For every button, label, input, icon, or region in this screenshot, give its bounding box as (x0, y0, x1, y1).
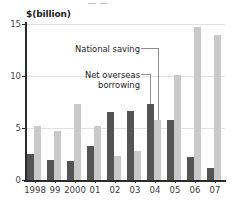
bar-national-saving-06 (194, 27, 201, 180)
bar-net-overseas-borrowing-06 (187, 157, 194, 180)
y-tick-label: 10 (1, 71, 21, 81)
bar-net-overseas-borrowing-1998 (27, 154, 34, 180)
cropped-title-sliver: — — (88, 0, 144, 4)
y-tick-label: 5 (1, 123, 21, 133)
bar-national-saving-03 (134, 151, 141, 180)
annotation-net-overseas-borrowing: Net overseas borrowing (46, 70, 140, 90)
annotation-leader-vertical (150, 74, 151, 104)
x-tick-mark (195, 180, 196, 183)
x-tick-mark (215, 180, 216, 183)
annotation-national-saving: National saving (56, 44, 140, 54)
bar-net-overseas-borrowing-03 (127, 111, 134, 180)
x-tick-mark (115, 180, 116, 183)
annotation-leader-horizontal (141, 74, 150, 75)
bar-net-overseas-borrowing-05 (167, 120, 174, 180)
bar-net-overseas-borrowing-2000 (67, 161, 74, 180)
chart-figure: — — $(billion) National saving Net overs… (0, 0, 232, 204)
bar-net-overseas-borrowing-02 (107, 112, 114, 180)
bar-national-saving-02 (114, 156, 121, 180)
bar-net-overseas-borrowing-07 (207, 168, 214, 180)
bar-net-overseas-borrowing-01 (87, 146, 94, 180)
bar-net-overseas-borrowing-04 (147, 104, 154, 180)
y-tick-mark (22, 76, 25, 77)
y-tick-mark (22, 24, 25, 25)
y-axis-label: $(billion) (26, 9, 71, 19)
y-tick-label: 15 (1, 19, 21, 29)
x-tick-mark (95, 180, 96, 183)
y-tick-mark (22, 128, 25, 129)
x-tick-mark (155, 180, 156, 183)
bar-national-saving-99 (54, 131, 61, 180)
y-axis-line (25, 22, 27, 182)
bar-national-saving-07 (214, 35, 221, 180)
bar-national-saving-04 (154, 120, 161, 180)
x-tick-label-07: 07 (201, 185, 229, 195)
annotation-leader-vertical (158, 48, 159, 120)
bar-national-saving-2000 (74, 104, 81, 180)
gridline (25, 24, 225, 25)
x-tick-mark (55, 180, 56, 183)
x-tick-mark (35, 180, 36, 183)
bar-national-saving-05 (174, 75, 181, 180)
bar-national-saving-1998 (34, 126, 41, 180)
bar-net-overseas-borrowing-99 (47, 160, 54, 180)
x-tick-mark (175, 180, 176, 183)
y-tick-mark (22, 180, 25, 181)
annotation-leader-horizontal (141, 48, 158, 49)
bar-national-saving-01 (94, 126, 101, 180)
x-tick-mark (135, 180, 136, 183)
x-tick-mark (75, 180, 76, 183)
y-tick-label: 0 (1, 175, 21, 185)
